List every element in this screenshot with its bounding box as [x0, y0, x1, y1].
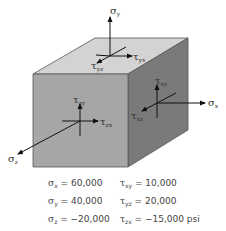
- label-sigma-y: σy: [110, 5, 121, 18]
- stress-cube-diagram: σy τyx τyz τxy σx τxz τzy τzx σz: [0, 0, 226, 231]
- label-sigma-x: σx: [208, 97, 219, 109]
- value-sigma-x: σx = 60,000: [48, 178, 102, 189]
- value-tau-yz: τyz = 20,000: [120, 196, 176, 207]
- value-tau-xy: τxy = 10,000: [120, 178, 177, 189]
- label-sigma-z: σz: [8, 153, 18, 165]
- value-sigma-y: σy = 40,000: [48, 196, 102, 207]
- value-tau-zx: τzx = −15,000 psi: [120, 214, 200, 225]
- value-sigma-z: σz = −20,000: [48, 214, 110, 225]
